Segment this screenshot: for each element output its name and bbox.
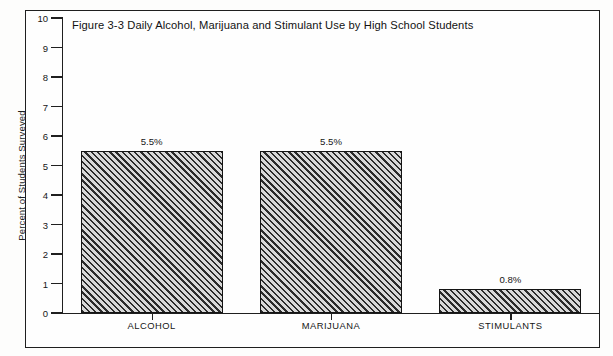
y-tick-mark: [51, 224, 62, 225]
y-tick-mark: [51, 312, 62, 313]
bar-alcohol: [81, 151, 223, 313]
y-tick-mark: [51, 106, 62, 107]
bar-value-label: 5.5%: [141, 136, 163, 147]
bar-stimulants: [439, 289, 581, 313]
y-tick-mark: [51, 165, 62, 166]
bar-value-label: 0.8%: [499, 274, 521, 285]
bar-marijuana: [260, 151, 402, 313]
y-tick-label: 4: [27, 190, 48, 201]
y-tick-mark: [51, 17, 62, 18]
y-tick-label: 7: [27, 101, 48, 112]
y-tick-label: 10: [27, 13, 48, 24]
y-tick-label: 6: [27, 131, 48, 142]
y-tick-mark: [51, 283, 62, 284]
figure-container: Percent of Students Surveyed Figure 3-3 …: [0, 0, 613, 356]
bar-value-label: 5.5%: [320, 136, 342, 147]
y-tick-mark: [51, 194, 62, 195]
y-tick-label: 9: [27, 42, 48, 53]
y-tick-mark: [51, 253, 62, 254]
x-axis-label-marijuana: MARIJUANA: [302, 320, 361, 331]
y-tick-label: 5: [27, 160, 48, 171]
y-tick-label: 0: [27, 308, 48, 319]
y-tick-label: 8: [27, 72, 48, 83]
y-tick-label: 2: [27, 249, 48, 260]
y-tick-mark: [51, 76, 62, 77]
x-axis-label-stimulants: STIMULANTS: [478, 320, 542, 331]
y-tick-mark: [51, 47, 62, 48]
y-tick-label: 1: [27, 278, 48, 289]
bars-layer: 5.5%5.5%0.8%: [62, 18, 600, 313]
y-tick-mark: [51, 135, 62, 136]
y-tick-label: 3: [27, 219, 48, 230]
x-axis-label-alcohol: ALCOHOL: [128, 320, 176, 331]
